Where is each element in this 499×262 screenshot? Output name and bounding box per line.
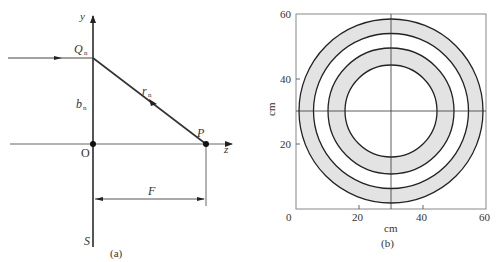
label-r-sub: n (148, 91, 152, 99)
ray-rn (93, 58, 206, 144)
label-z: z (223, 143, 229, 155)
x-tick-label-20: 20 (352, 211, 364, 223)
label-b: b (76, 97, 82, 111)
incoming-ray-arrow-icon (54, 56, 62, 60)
label-O: O (81, 146, 90, 160)
label-S: S (84, 234, 90, 248)
label-y: y (79, 10, 85, 22)
figure-b: 0 20 40 60 20 40 60 cm cm (b) (265, 8, 491, 250)
label-F: F (147, 184, 156, 198)
caption-b: (b) (381, 237, 394, 250)
x-tick-label-40: 40 (416, 211, 428, 223)
y-tick-label-60: 60 (280, 8, 292, 20)
point-O (90, 141, 96, 147)
label-P: P (196, 126, 205, 140)
label-r: r (142, 84, 147, 98)
figure-canvas: y z Q n r n b n P O F S (a) 0 20 40 60 2… (0, 0, 499, 262)
point-P (203, 141, 209, 147)
y-tick-label-40: 40 (280, 73, 292, 85)
f-arrow-left-icon (95, 197, 103, 201)
label-b-sub: n (83, 104, 87, 112)
x-axis-label: cm (384, 222, 398, 234)
caption-a: (a) (110, 247, 123, 260)
y-axis-label: cm (265, 102, 277, 116)
x-tick-label-0: 0 (286, 211, 292, 223)
x-tick-label-60: 60 (479, 211, 491, 223)
label-Q-sub: n (84, 49, 88, 57)
f-arrow-right-icon (197, 197, 205, 201)
y-tick-label-20: 20 (280, 138, 292, 150)
label-Q: Q (74, 42, 83, 56)
figure-a: y z Q n r n b n P O F S (a) (8, 10, 232, 260)
